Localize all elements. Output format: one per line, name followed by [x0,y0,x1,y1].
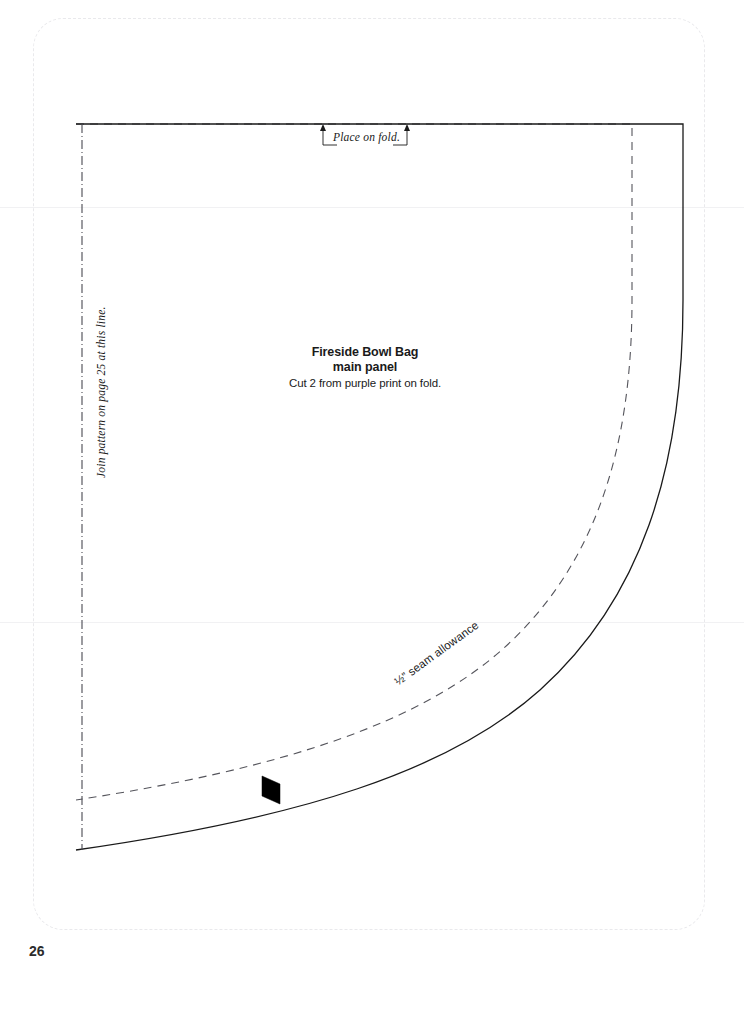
page-number: 26 [29,943,45,959]
cutting-line [76,124,683,850]
seam-allowance-line [76,124,632,800]
fold-arrow-right-icon [404,124,410,131]
pattern-title-line-2: main panel [265,360,465,375]
place-on-fold-label: Place on fold. [333,131,400,143]
pattern-piece-label: Fireside Bowl Bag main panel Cut 2 from … [265,345,465,391]
pattern-page: Place on fold. Join pattern on page 25 a… [0,0,744,1017]
pattern-drawing [0,0,744,1017]
notch-marker-icon [262,776,280,804]
fold-arrow-left-icon [320,124,326,131]
pattern-cut-instruction: Cut 2 from purple print on fold. [265,376,465,391]
pattern-title-line-1: Fireside Bowl Bag [265,345,465,360]
join-pattern-label: Join pattern on page 25 at this line. [95,306,107,478]
